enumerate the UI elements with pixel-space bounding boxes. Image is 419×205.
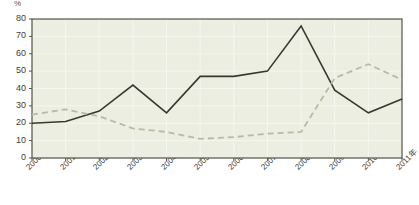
chart-plot-area [0, 0, 411, 205]
line-chart: % 01020304050607080 2000年2001年2002年2003年… [0, 0, 411, 205]
